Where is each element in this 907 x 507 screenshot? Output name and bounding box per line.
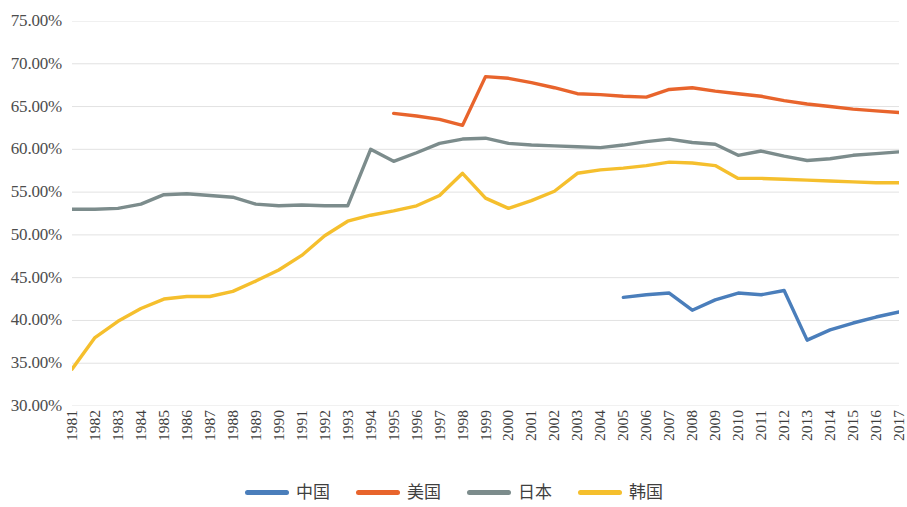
x-tick-label: 2017 [890, 410, 907, 441]
x-tick-label: 1988 [224, 410, 242, 441]
legend-label: 日本 [518, 484, 552, 501]
chart-legend: 中国美国日本韩国 [0, 484, 907, 501]
plot-area [72, 21, 899, 406]
x-tick-label: 1985 [155, 410, 173, 441]
legend-label: 美国 [407, 484, 441, 501]
x-tick-label: 1982 [86, 410, 104, 441]
legend-color-swatch [356, 490, 400, 495]
legend-color-swatch [578, 490, 622, 495]
x-tick-label: 1992 [316, 410, 334, 441]
x-tick-label: 1984 [132, 410, 150, 441]
x-tick-label: 2015 [844, 410, 862, 441]
x-tick-label: 1983 [109, 410, 127, 441]
x-tick-label: 2004 [591, 410, 609, 441]
y-tick-label: 60.00% [11, 139, 62, 159]
x-tick-label: 1981 [63, 410, 81, 441]
y-tick-label: 45.00% [11, 268, 62, 288]
x-tick-label: 1995 [385, 410, 403, 441]
x-tick-label: 1996 [408, 410, 426, 441]
x-tick-label: 2000 [499, 410, 517, 441]
x-tick-label: 1987 [201, 410, 219, 441]
x-tick-label: 1997 [431, 410, 449, 441]
x-tick-label: 2011 [752, 410, 770, 440]
x-tick-label: 1989 [247, 410, 265, 441]
x-tick-label: 2012 [775, 410, 793, 441]
x-tick-label: 1991 [293, 410, 311, 441]
legend-color-swatch [245, 490, 289, 495]
x-tick-label: 2002 [545, 410, 563, 441]
y-tick-label: 35.00% [11, 353, 62, 373]
legend-item[interactable]: 美国 [356, 484, 441, 501]
y-tick-label: 30.00% [11, 396, 62, 416]
x-tick-label: 2003 [568, 410, 586, 441]
x-tick-label: 2014 [821, 410, 839, 441]
x-tick-label: 2013 [798, 410, 816, 441]
x-tick-label: 2006 [637, 410, 655, 441]
x-tick-label: 1999 [477, 410, 495, 441]
y-tick-label: 50.00% [11, 225, 62, 245]
legend-label: 韩国 [629, 484, 663, 501]
y-axis: 75.00%70.00%65.00%60.00%55.00%50.00%45.0… [0, 0, 68, 430]
line-chart: 75.00%70.00%65.00%60.00%55.00%50.00%45.0… [0, 0, 907, 507]
x-tick-label: 1990 [270, 410, 288, 441]
series-line [394, 77, 899, 126]
legend-item[interactable]: 韩国 [578, 484, 663, 501]
x-tick-label: 2008 [683, 410, 701, 441]
x-axis: 1981198219831984198519861987198819891990… [72, 410, 899, 480]
x-tick-label: 2010 [729, 410, 747, 441]
x-tick-label: 2009 [706, 410, 724, 441]
x-tick-label: 2007 [660, 410, 678, 441]
x-tick-label: 1998 [454, 410, 472, 441]
legend-color-swatch [467, 490, 511, 495]
y-tick-label: 70.00% [11, 54, 62, 74]
x-tick-label: 2016 [867, 410, 885, 441]
x-tick-label: 1994 [362, 410, 380, 441]
legend-item[interactable]: 日本 [467, 484, 552, 501]
x-tick-label: 2005 [614, 410, 632, 441]
y-tick-label: 55.00% [11, 182, 62, 202]
legend-label: 中国 [296, 484, 330, 501]
y-tick-label: 75.00% [11, 11, 62, 31]
x-tick-label: 2001 [522, 410, 540, 441]
legend-item[interactable]: 中国 [245, 484, 330, 501]
x-tick-label: 1986 [178, 410, 196, 441]
y-tick-label: 40.00% [11, 310, 62, 330]
x-tick-label: 1993 [339, 410, 357, 441]
series-line [623, 291, 899, 341]
series-lines [72, 21, 899, 406]
y-tick-label: 65.00% [11, 97, 62, 117]
